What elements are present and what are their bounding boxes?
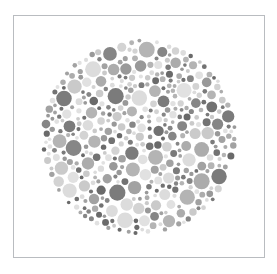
ishihara-plate-canvas	[0, 0, 277, 274]
plate-root	[0, 0, 277, 274]
